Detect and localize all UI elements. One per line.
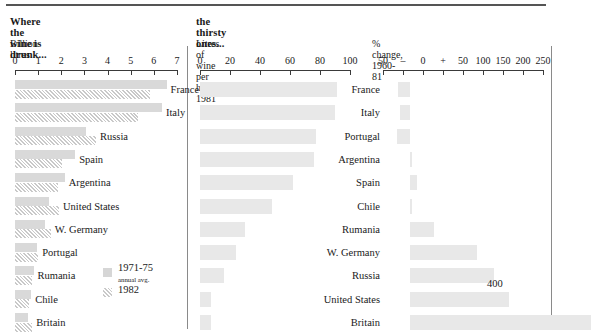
axis-tick-label: 3 [82, 55, 87, 66]
bar-litres-per-head [200, 175, 293, 190]
axis-line [200, 70, 350, 71]
bar-series-1982 [15, 323, 32, 332]
bar-litres-per-head [200, 82, 337, 97]
axis-tick-label: 100 [343, 55, 358, 66]
axis-tick-label: 50 [458, 55, 468, 66]
bar-litres-per-head [200, 199, 272, 214]
bar-series-1971-75 [15, 313, 28, 322]
axis-tick-label: 0 [198, 55, 203, 66]
bar-series-1971-75 [15, 243, 37, 252]
bar-series-1982 [15, 229, 51, 238]
bar-litres-per-head [200, 105, 335, 120]
legend-label-1982: 1982 [118, 284, 139, 295]
bar-category-label: Chile [35, 294, 58, 305]
bar-category-label: Portugal [344, 131, 380, 142]
bar-litres-per-head [200, 315, 211, 330]
bar-series-1982 [15, 206, 59, 215]
axis-tick [483, 70, 484, 75]
axis-tick-label: 0 [421, 55, 426, 66]
bar-litres-per-head [200, 268, 224, 283]
bar-category-label: Britain [351, 317, 380, 328]
bar-category-label: France [351, 84, 380, 95]
bar-series-1982 [15, 299, 29, 308]
axis-tick [350, 70, 351, 75]
bar-percent-change [400, 105, 410, 120]
axis-tick-label: 60 [285, 55, 295, 66]
bar-category-label: Rumania [342, 224, 380, 235]
axis-tick-label: 0 [13, 55, 18, 66]
bar-percent-change [397, 129, 410, 144]
axis-tick [177, 70, 178, 75]
bar-category-label: Russia [352, 270, 380, 281]
bar-series-1982 [15, 276, 32, 285]
axis-tick [131, 70, 132, 75]
bar-category-label: Chile [357, 201, 380, 212]
bar-percent-change [410, 175, 417, 190]
bar-category-label: Italy [166, 107, 185, 118]
axis-tick [523, 70, 524, 75]
bar-category-label: France [171, 84, 200, 95]
bar-series-1982 [15, 113, 138, 122]
axis-tick [443, 70, 444, 75]
axis-tick [543, 70, 544, 75]
bar-series-1982 [15, 183, 58, 192]
bar-category-label: Russia [100, 131, 128, 142]
axis-tick [84, 70, 85, 75]
top-rule [6, 4, 546, 6]
axis-tick-label: 1 [36, 55, 41, 66]
axis-tick [154, 70, 155, 75]
axis-tick-label: 200 [516, 55, 531, 66]
bar-category-label: Italy [361, 107, 380, 118]
bar-category-label: United States [63, 201, 119, 212]
bar-percent-change [410, 222, 434, 237]
bar-series-1971-75 [15, 220, 45, 229]
axis-tick [503, 70, 504, 75]
bar-series-1982 [15, 90, 150, 99]
axis-tick-label: 2 [59, 55, 64, 66]
axis-tick [290, 70, 291, 75]
bar-percent-change [410, 268, 494, 283]
panel-divider-2 [551, 46, 552, 329]
bar-series-1982 [15, 253, 38, 262]
annotation-400: 400 [487, 278, 503, 289]
axis-tick-label: 250 [536, 55, 551, 66]
bar-series-1982 [15, 136, 96, 145]
bar-litres-per-head [200, 292, 211, 307]
bar-category-label: Argentina [69, 177, 111, 188]
axis-tick-label: 4 [105, 55, 110, 66]
bar-litres-per-head [200, 129, 316, 144]
bar-category-label: Spain [79, 154, 103, 165]
axis-line [15, 70, 177, 71]
axis-tick [108, 70, 109, 75]
bar-percent-change [410, 199, 412, 214]
axis-tick [423, 70, 424, 75]
axis-tick [383, 70, 384, 75]
axis-tick-label: + [440, 55, 446, 66]
bar-category-label: W. Germany [55, 224, 108, 235]
bar-series-1971-75 [15, 173, 65, 182]
bar-category-label: W. Germany [327, 247, 380, 258]
axis-tick-label: 50 [378, 55, 388, 66]
bar-litres-per-head [200, 152, 314, 167]
axis-tick-label: – [401, 55, 406, 66]
bar-category-label: Portugal [42, 247, 78, 258]
axis-tick [403, 70, 404, 75]
legend-swatch-1971-75 [103, 268, 112, 277]
bar-category-label: United States [324, 294, 380, 305]
bar-series-1971-75 [15, 103, 162, 112]
legend-sublabel-annual-avg: annual avg. [118, 276, 149, 283]
bar-litres-per-head [200, 222, 245, 237]
bar-percent-change [410, 245, 477, 260]
bar-series-1971-75 [15, 266, 34, 275]
bar-percent-change [410, 315, 591, 330]
bar-series-1971-75 [15, 290, 31, 299]
axis-tick-label: 150 [496, 55, 511, 66]
bar-series-1971-75 [15, 127, 86, 136]
axis-tick [61, 70, 62, 75]
axis-tick [200, 70, 201, 75]
axis-tick-label: 20 [225, 55, 235, 66]
axis-tick-label: 7 [175, 55, 180, 66]
bar-series-1971-75 [15, 80, 167, 89]
axis-tick [463, 70, 464, 75]
bar-series-1971-75 [15, 150, 75, 159]
